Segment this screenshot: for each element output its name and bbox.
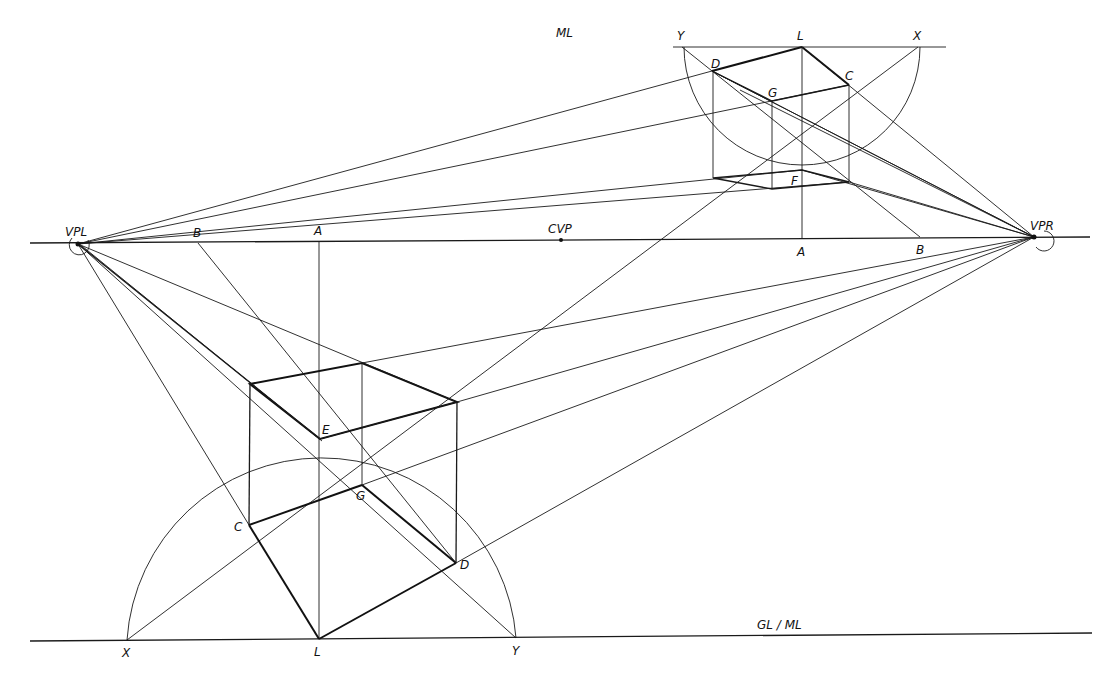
- top-edge-d-l: [712, 47, 802, 71]
- ray-vpr-back: [362, 237, 1034, 363]
- label-top-x: X: [912, 29, 922, 43]
- label-ground-x: X: [121, 646, 131, 660]
- label-b-right: B: [916, 243, 924, 257]
- label-a-left: A: [313, 224, 322, 238]
- cube-vert-right: [456, 402, 457, 563]
- ray-vpl-y: [78, 244, 516, 638]
- label-cube-e: E: [322, 423, 330, 437]
- label-cube-g: G: [356, 489, 365, 503]
- label-vpl: VPL: [65, 225, 87, 239]
- label-top-ml: ML: [556, 26, 573, 40]
- cvp-point: [559, 238, 563, 242]
- cube-edge-l-d: [319, 563, 456, 639]
- ray-vpl-d-low: [78, 244, 457, 402]
- perspective-diagram: VPL VPR CVP B A A B ML Y L X D C G F E C…: [0, 0, 1115, 680]
- label-top-f: F: [791, 174, 799, 188]
- vpl-point: [76, 242, 81, 247]
- vpr-circle-icon: [1036, 231, 1054, 251]
- ray-vpr-g: [362, 237, 1034, 485]
- label-top-g: G: [768, 86, 777, 100]
- ground-line: [30, 633, 1092, 641]
- label-cvp: CVP: [548, 222, 573, 236]
- label-ground-l: L: [314, 645, 321, 659]
- label-cube-c: C: [234, 520, 243, 534]
- label-vpr: VPR: [1030, 219, 1054, 233]
- top-bottom-quad: [713, 170, 849, 189]
- ray-vpl-c-low: [78, 244, 249, 525]
- label-ground-y: Y: [512, 644, 521, 658]
- vpr-point: [1032, 235, 1037, 240]
- cube-vert-left: [249, 384, 250, 525]
- label-top-c: C: [845, 69, 854, 83]
- cube-edge-c-l: [249, 525, 319, 639]
- label-cube-d: D: [460, 558, 469, 572]
- label-top-l: L: [797, 29, 804, 43]
- ray-vpr-right: [457, 237, 1034, 402]
- label-a-right: A: [796, 245, 805, 259]
- label-b-left: B: [193, 226, 201, 240]
- top-x-to-cvp: [127, 47, 918, 640]
- top-y-to-b: [682, 47, 920, 237]
- ray-l-vpr: [802, 47, 1034, 237]
- label-top-d: D: [711, 57, 720, 71]
- ray-vpl-c: [78, 85, 849, 244]
- label-ground-line: GL / ML: [757, 618, 802, 632]
- cube-top-face: [250, 363, 457, 439]
- label-top-y: Y: [677, 29, 686, 43]
- ray-vpl-d: [78, 71, 712, 244]
- ray-vpr-d: [456, 237, 1034, 563]
- ray-vpl-e2: [82, 246, 322, 441]
- cube-edge-c-g: [249, 485, 362, 525]
- ray-b-down: [198, 243, 456, 563]
- ray-d2-vpr: [712, 71, 1034, 237]
- ray-vpl-bq1: [78, 170, 802, 244]
- cube-edge-g-d: [362, 485, 456, 563]
- ground-semicircle: [127, 458, 516, 640]
